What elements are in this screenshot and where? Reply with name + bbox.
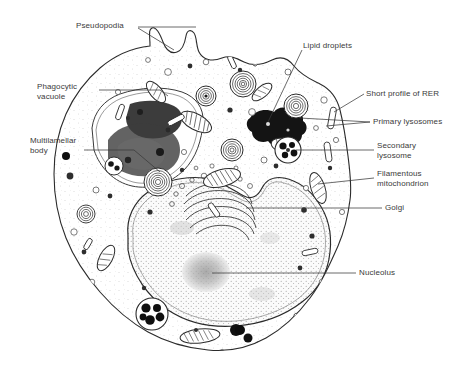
label-primary-lysosomes: Primary lysosomes: [373, 117, 442, 127]
figure-canvas: Pseudopodia Phagocytic vacuole Multilame…: [0, 0, 466, 367]
label-filamentous-mitochondrion: Filamentous mitochondrion: [377, 169, 429, 189]
cell-body: [54, 28, 351, 356]
label-nucleolus: Nucleolus: [359, 268, 395, 278]
label-pseudopodia: Pseudopodia: [76, 21, 124, 31]
label-secondary-lysosome: Secondary lysosome: [377, 141, 416, 161]
label-phagocytic-vacuole: Phagocytic vacuole: [37, 82, 77, 102]
nucleolus-body: [182, 252, 230, 292]
label-short-profile-of-rer: Short profile of RER: [366, 89, 439, 99]
label-golgi: Golgi: [385, 203, 404, 213]
label-multilamellar-body: Multilamellar body: [30, 136, 76, 156]
label-lipid-droplets: Lipid droplets: [303, 41, 352, 51]
